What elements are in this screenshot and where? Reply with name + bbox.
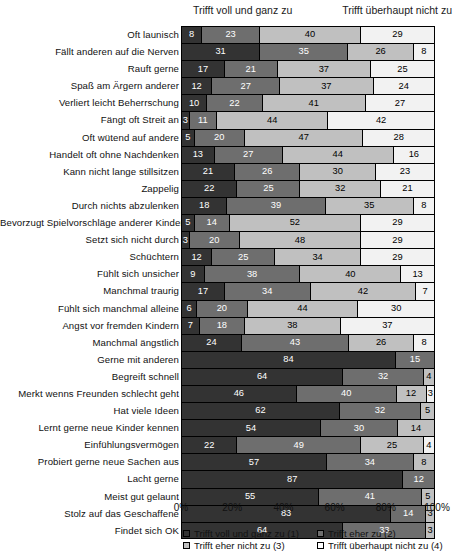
bar-segment-value: 3	[428, 389, 433, 398]
bar-row-label: Lernt gerne neue Kinder kennen	[0, 419, 181, 436]
bar-segment: 35	[326, 198, 414, 214]
bar-segment: 44	[248, 301, 359, 317]
bar-segment-value: 13	[412, 270, 422, 279]
bar-segment-value: 35	[299, 47, 309, 56]
bar-segment-value: 3	[183, 236, 188, 245]
bar-track: 22253221	[181, 180, 435, 197]
bar-segment: 37	[341, 318, 434, 334]
bar-row: Merkt wenns Freunden schlecht geht464012…	[0, 385, 459, 402]
bar-row: Durch nichts abzulenken1839358	[0, 197, 459, 214]
bar-segment-value: 37	[321, 82, 331, 91]
x-axis-tick-label: 0%	[174, 502, 188, 513]
legend-item-label: Trifft voll und ganz zu (1)	[194, 528, 299, 539]
bar-segment: 87	[182, 471, 403, 487]
bar-row-label: Handelt oft ohne Nachdenken	[0, 146, 181, 163]
bar-segment-value: 29	[392, 236, 402, 245]
bar-segment: 12	[182, 249, 212, 265]
bar-segment: 12	[397, 386, 427, 402]
bar-segment: 64	[182, 369, 343, 385]
bar-segment: 32	[343, 369, 424, 385]
bar-segment-value: 4	[426, 441, 431, 450]
bar-track: 13274416	[181, 146, 435, 163]
bar-segment: 14	[398, 420, 434, 436]
bar-segment: 22	[207, 95, 262, 111]
bar-segment-value: 62	[255, 406, 265, 415]
legend-item: Trifft eher nicht zu (3)	[183, 540, 317, 551]
bar-segment-value: 46	[234, 389, 244, 398]
bar-segment: 21	[225, 61, 278, 77]
bar-track: 2443268	[181, 334, 435, 351]
bar-segment-value: 37	[319, 65, 329, 74]
bar-row-label: Schüchtern	[0, 248, 181, 265]
bar-segment-value: 5	[185, 133, 190, 142]
bar-row: Setzt sich nicht durch3204829	[0, 231, 459, 248]
bar-segment: 3	[182, 232, 190, 248]
bar-row: Oft launisch8234029	[0, 26, 459, 43]
bar-track: 8712	[181, 470, 435, 487]
bar-row-label: Stolz auf das Geschaffene	[0, 505, 181, 522]
bar-segment: 7	[182, 318, 200, 334]
bar-track: 64324	[181, 368, 435, 385]
bar-segment-value: 12	[406, 389, 416, 398]
bar-segment: 8	[182, 27, 202, 43]
bar-row-label: Fällt anderen auf die Nerven	[0, 43, 181, 60]
bar-segment: 52	[230, 215, 361, 231]
bar-segment-value: 8	[421, 338, 426, 347]
bar-segment-value: 29	[392, 218, 402, 227]
bar-segment: 41	[263, 95, 366, 111]
bar-segment-value: 14	[207, 218, 217, 227]
bar-row-label: Fühlt sich manchmal alleine	[0, 300, 181, 317]
bar-segment: 46	[182, 386, 297, 402]
bar-segment-value: 38	[247, 270, 257, 279]
bar-segment: 6	[182, 301, 197, 317]
bar-segment-value: 84	[283, 355, 293, 364]
bar-segment-value: 32	[375, 406, 385, 415]
bar-segment-value: 37	[382, 321, 392, 330]
bar-segment: 40	[260, 27, 361, 43]
bar-segment: 26	[235, 164, 301, 180]
bar-segment-value: 26	[262, 167, 272, 176]
bar-segment: 5	[182, 215, 195, 231]
bar-row: Hat viele Ideen62325	[0, 402, 459, 419]
bar-row: Spaß am Ärgern anderer12273724	[0, 77, 459, 94]
bar-segment-value: 20	[217, 304, 227, 313]
bar-row-label: Merkt wenns Freunden schlecht geht	[0, 385, 181, 402]
bar-segment-value: 17	[198, 287, 208, 296]
bar-segment: 8	[414, 454, 434, 470]
bar-segment: 38	[245, 318, 341, 334]
bar-row: Fällt anderen auf die Nerven3135268	[0, 43, 459, 60]
bar-row-label: Rauft gerne	[0, 60, 181, 77]
bar-row: Oft wütend auf andere5204728	[0, 129, 459, 146]
bar-segment-value: 23	[225, 30, 235, 39]
bar-segment-value: 23	[400, 167, 410, 176]
bar-segment-value: 20	[209, 236, 219, 245]
bar-segment: 32	[300, 181, 381, 197]
bar-segment-value: 25	[397, 65, 407, 74]
bar-segment-value: 8	[189, 30, 194, 39]
bar-segment: 18	[182, 198, 227, 214]
bar-segment-value: 25	[387, 441, 397, 450]
bar-segment-value: 32	[378, 372, 388, 381]
bar-segment: 4	[424, 369, 434, 385]
bar-segment: 23	[376, 164, 434, 180]
bar-segment: 25	[237, 181, 300, 197]
bar-row: Manchmal traurig1734427	[0, 282, 459, 299]
bar-segment-value: 27	[241, 82, 251, 91]
bar-segment-value: 27	[243, 150, 253, 159]
bar-segment-value: 40	[345, 270, 355, 279]
bar-segment-value: 8	[421, 458, 426, 467]
header-annotation-left: Trifft voll und ganz zu	[193, 4, 292, 16]
bar-row: Handelt oft ohne Nachdenken13274416	[0, 146, 459, 163]
bar-track: 7183837	[181, 317, 435, 334]
bar-track: 3204829	[181, 231, 435, 248]
bar-segment: 40	[300, 266, 401, 282]
bar-segment: 32	[340, 403, 421, 419]
bar-segment-value: 22	[229, 99, 239, 108]
bar-track: 12253429	[181, 248, 435, 265]
bar-segment-value: 30	[333, 167, 343, 176]
bar-segment-value: 48	[295, 236, 305, 245]
legend-swatch-icon	[317, 530, 324, 537]
x-axis-tick-label: 80%	[376, 502, 396, 513]
bar-segment-value: 32	[335, 184, 345, 193]
bar-segment: 3	[427, 386, 434, 402]
